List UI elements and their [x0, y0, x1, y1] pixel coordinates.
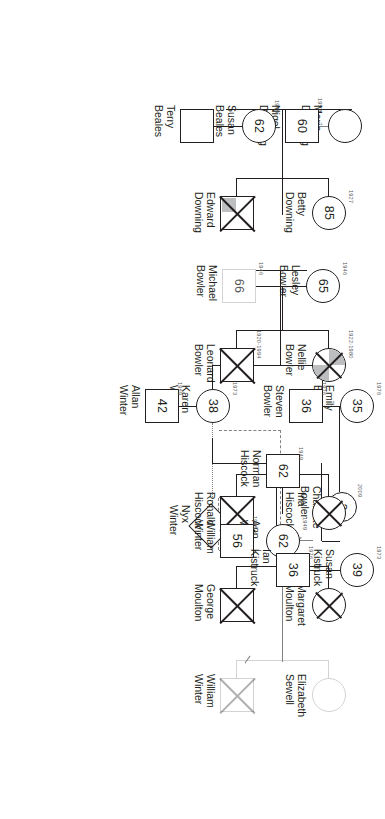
- node-susan-beales[interactable]: 62: [242, 109, 276, 143]
- node-nigel-downing[interactable]: 60: [285, 109, 319, 143]
- year-leonard-bowler: 1920-1994: [256, 330, 262, 359]
- copyright-notice: © Karen Bowler 2013. Not to be reproduce…: [120, 408, 385, 728]
- age-leonard-bowler: [221, 349, 253, 381]
- node-michael-bowler[interactable]: 66: [222, 269, 256, 303]
- node-terry-beales[interactable]: [180, 109, 214, 143]
- line-bowler-couple: [237, 330, 329, 331]
- age-terry-beales: [181, 110, 213, 142]
- label-edward-downing: Edward Downing: [193, 192, 216, 242]
- node-betty-downing[interactable]: 85: [312, 196, 346, 230]
- node-nellie-bowler[interactable]: [312, 348, 346, 382]
- age-michael-bowler: 66: [223, 270, 255, 302]
- label-nellie-bowler: Nellie Bowler: [284, 344, 307, 388]
- year-nigel-downing: 1952: [317, 98, 323, 111]
- age-nigel-downing: 60: [286, 110, 318, 142]
- line-downing-sibship: [282, 109, 283, 215]
- year-susan-beales: 1949: [274, 100, 280, 113]
- label-lesley-bowler: Lesley Bowler: [278, 265, 301, 309]
- label-susan-beales: Susan Beales: [214, 105, 237, 147]
- label-terry-beales: Terry Beales: [153, 105, 176, 147]
- age-betty-downing: 85: [313, 197, 345, 229]
- age-lesley-bowler: 65: [307, 270, 339, 302]
- year-steven-bowler: 1976: [321, 382, 327, 395]
- age-susan-beales: 62: [243, 110, 275, 142]
- year-allan-winter: 1969: [177, 382, 183, 395]
- label-betty-downing: Betty Downing: [284, 192, 307, 238]
- year-karen-winter: 1973: [232, 382, 238, 395]
- node-leonard-bowler[interactable]: [220, 348, 254, 382]
- node-lesley-bowler[interactable]: 65: [306, 269, 340, 303]
- age-edward-downing: [221, 197, 253, 229]
- year-michael-bowler: 1946: [258, 262, 264, 275]
- line-downing-couple: [237, 178, 329, 179]
- copyright-wrap: © Karen Bowler 2013. Not to be reproduce…: [345, 0, 385, 819]
- node-edward-downing[interactable]: [220, 196, 254, 230]
- label-leonard-bowler: Leonard Bowler: [193, 344, 216, 394]
- age-nellie-bowler: [313, 349, 345, 381]
- label-michael-bowler: Michael Bowler: [195, 265, 218, 315]
